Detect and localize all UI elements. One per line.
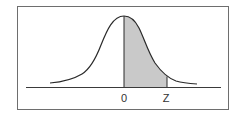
z-label: Z: [163, 92, 170, 104]
origin-label: 0: [121, 92, 127, 104]
normal-distribution-diagram: 0 Z: [0, 0, 241, 115]
